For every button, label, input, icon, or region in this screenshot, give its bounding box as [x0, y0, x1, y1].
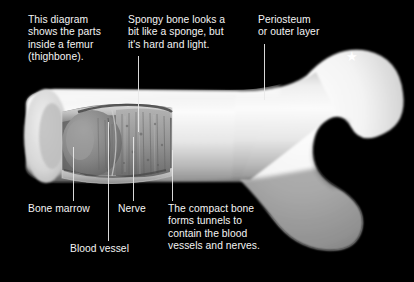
star-icon: ★ [346, 50, 358, 63]
caption-bone-marrow: Bone marrow [28, 203, 118, 215]
caption-compact-bone: The compact bone forms tunnels to contai… [168, 203, 294, 253]
leader-line-blood-vessel [108, 122, 109, 241]
femur-diagram: ★ This diagram shows the parts inside a … [0, 0, 414, 282]
bone-cut-end [24, 89, 68, 183]
leader-line-periosteum [264, 44, 265, 100]
caption-spongy-bone: Spongy bone looks a bit like a sponge, b… [128, 14, 252, 51]
leader-line-spongy-bone [138, 56, 139, 132]
leader-line-compact-bone [172, 150, 173, 201]
caption-nerve: Nerve [118, 203, 166, 215]
leader-line-nerve [133, 137, 134, 201]
caption-periosteum: Periosteum or outer layer [258, 14, 362, 39]
leader-line-bone-marrow [73, 147, 74, 201]
caption-blood-vessel: Blood vessel [70, 243, 160, 255]
